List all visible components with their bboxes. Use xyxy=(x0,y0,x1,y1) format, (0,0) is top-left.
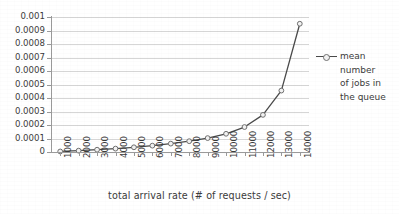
x-axis-tick-label: 12000 xyxy=(267,131,276,158)
legend-line-marker-icon xyxy=(316,56,337,57)
legend-label-line-4: the queue xyxy=(340,91,396,105)
x-axis-tick-label: 10000 xyxy=(230,131,239,158)
x-axis-tick-label: 4000 xyxy=(120,136,129,158)
x-axis-tick-label: 9000 xyxy=(212,136,221,158)
x-axis-tick-label: 5000 xyxy=(138,136,147,158)
y-axis-tick xyxy=(47,17,51,18)
x-axis-tick-label: 3000 xyxy=(101,136,110,158)
y-axis-tick xyxy=(47,71,51,72)
chart-legend: mean number of jobs in the queue xyxy=(316,50,396,104)
x-axis-tick-label: 7000 xyxy=(175,136,184,158)
y-axis-tick xyxy=(47,31,51,32)
x-axis-tick-label: 13000 xyxy=(285,131,294,158)
legend-item-mean-jobs: mean number of jobs in the queue xyxy=(316,50,396,104)
legend-label-line-1: mean xyxy=(340,50,396,64)
y-axis-tick xyxy=(47,152,51,153)
y-axis-tick xyxy=(47,125,51,126)
chart-container: 00.00010.00020.00030.00040.00050.00060.0… xyxy=(0,0,399,214)
x-axis-tick-label: 8000 xyxy=(193,136,202,158)
x-axis-title: total arrival rate (# of requests / sec) xyxy=(0,190,399,201)
x-axis-tick-label: 1000 xyxy=(64,136,73,158)
x-axis-tick-label: 11000 xyxy=(249,131,258,158)
x-axis-tick-label: 14000 xyxy=(304,131,313,158)
y-axis-tick xyxy=(47,112,51,113)
y-axis-tick xyxy=(47,98,51,99)
x-axis-tick-label: 2000 xyxy=(83,136,92,158)
y-axis-tick xyxy=(47,44,51,45)
x-axis-tick-label: 6000 xyxy=(156,136,165,158)
legend-label-line-3: of jobs in xyxy=(340,77,396,91)
x-axis-tick-labels: 1000200030004000500060007000800090001000… xyxy=(0,0,399,214)
y-axis-tick xyxy=(47,58,51,59)
y-axis-tick xyxy=(47,139,51,140)
legend-label-line-2: number xyxy=(340,64,396,78)
y-axis-tick xyxy=(47,85,51,86)
